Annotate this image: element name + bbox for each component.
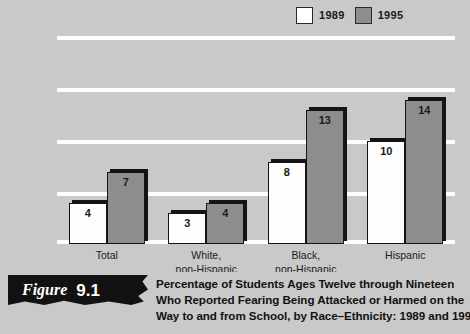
bar-value-1995: 4 <box>207 208 243 219</box>
bar-group-white-non-hispanic: 3 4 White, non-Hispanic <box>157 32 257 244</box>
legend-item-1989: 1989 <box>296 7 345 24</box>
bar-wrap-1989: 10 <box>367 141 405 244</box>
caption-line-3: Way to and from School, by Race–Ethnicit… <box>156 308 466 324</box>
figure-badge: Figure 9.1 <box>8 275 148 305</box>
bar-value-1995: 14 <box>406 105 442 116</box>
bar-value-1989: 8 <box>269 167 305 178</box>
caption-line-2: Who Reported Fearing Being Attacked or H… <box>156 292 466 308</box>
bar-value-1995: 13 <box>307 115 343 126</box>
category-label: Hispanic <box>342 248 470 262</box>
chart-panel: 1989 1995 20 15 10 5 0 <box>0 0 470 272</box>
bar-wrap-1995: 7 <box>107 172 145 244</box>
caption-line-1: Percentage of Students Ages Twelve throu… <box>156 276 466 292</box>
bar-value-1995: 7 <box>108 177 144 188</box>
bar-groups: 4 7 Total <box>57 32 455 244</box>
bar-group-hispanic: 10 14 Hispanic <box>356 32 456 244</box>
legend-label-1995: 1995 <box>378 10 404 21</box>
figure-caption-text: Percentage of Students Ages Twelve throu… <box>156 276 466 324</box>
bars: 3 4 <box>157 32 257 244</box>
chart-legend: 1989 1995 <box>296 5 403 25</box>
bar-wrap-1995: 4 <box>206 203 244 244</box>
bar-group-total: 4 7 Total <box>57 32 157 244</box>
legend-label-1989: 1989 <box>319 10 345 21</box>
bar-1995[interactable]: 14 <box>405 100 443 244</box>
bar-1995[interactable]: 7 <box>107 172 145 244</box>
gray-swatch-icon <box>355 7 372 24</box>
bar-wrap-1989: 3 <box>168 213 206 244</box>
bar-1989[interactable]: 10 <box>367 141 405 244</box>
bars: 10 14 <box>356 32 456 244</box>
bar-wrap-1995: 14 <box>405 100 443 244</box>
bars: 8 13 <box>256 32 356 244</box>
white-swatch-icon <box>296 7 313 24</box>
bar-value-1989: 4 <box>70 208 106 219</box>
bar-1989[interactable]: 3 <box>168 213 206 244</box>
bar-1995[interactable]: 13 <box>306 110 344 244</box>
figure-word: Figure <box>22 282 67 298</box>
category-label-line1: Hispanic <box>342 248 470 262</box>
bar-value-1989: 10 <box>368 146 404 157</box>
bar-wrap-1989: 4 <box>69 203 107 244</box>
bar-group-black-non-hispanic: 8 13 Black, non-Hispanic <box>256 32 356 244</box>
bar-wrap-1995: 13 <box>306 110 344 244</box>
bar-1989[interactable]: 4 <box>69 203 107 244</box>
figure-caption-band: Figure 9.1 Percentage of Students Ages T… <box>0 272 470 334</box>
bar-wrap-1989: 8 <box>268 162 306 244</box>
legend-item-1995: 1995 <box>355 7 404 24</box>
figure-number: 9.1 <box>76 282 100 299</box>
bars: 4 7 <box>57 32 157 244</box>
figure-container: 1989 1995 20 15 10 5 0 <box>0 0 470 334</box>
bar-1989[interactable]: 8 <box>268 162 306 244</box>
bar-value-1989: 3 <box>169 218 205 229</box>
bar-1995[interactable]: 4 <box>206 203 244 244</box>
